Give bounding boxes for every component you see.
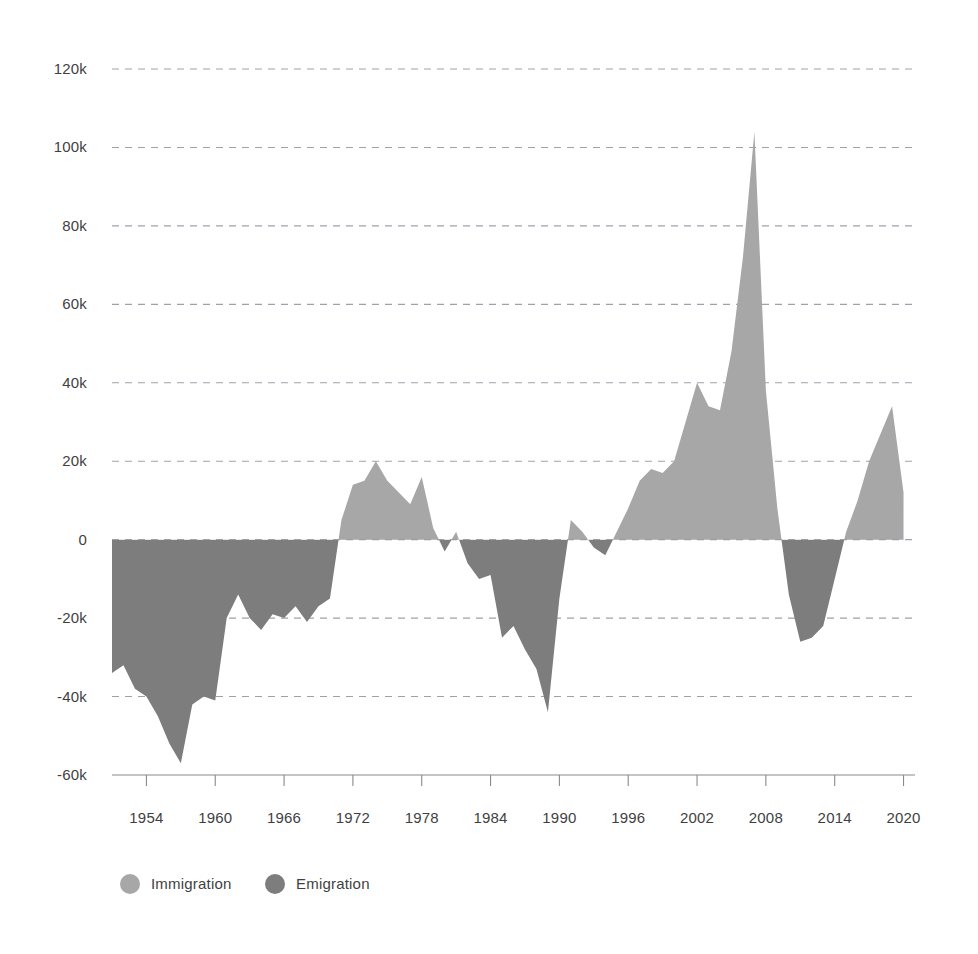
y-tick-label: 0 [78,531,87,548]
x-tick-label: 1954 [129,809,163,826]
y-tick-label: 100k [54,138,88,155]
legend-item-label: Immigration [151,875,232,892]
y-tick-label: -20k [57,609,87,626]
x-tick-label: 1972 [336,809,370,826]
x-tick-label: 1966 [267,809,301,826]
legend-item-emigration[interactable]: Emigration [265,874,370,894]
immigration-area [112,132,904,763]
plot-area-group [112,132,904,763]
legend-swatch-icon [265,874,285,894]
y-tick-label: -40k [57,688,87,705]
x-tick-label: 2008 [749,809,783,826]
x-axis-group [112,775,915,786]
x-tick-label: 1990 [542,809,576,826]
x-tick-label: 2014 [818,809,852,826]
net-migration-area-chart: 120k100k80k60k40k20k0-20k-40k-60k 195419… [0,0,978,954]
y-axis-labels-group: 120k100k80k60k40k20k0-20k-40k-60k [54,60,88,783]
y-tick-label: 40k [62,374,87,391]
legend-item-label: Emigration [296,875,370,892]
x-tick-label: 1984 [473,809,507,826]
emigration-area [112,132,904,763]
y-tick-label: 20k [62,452,87,469]
x-tick-label: 1978 [405,809,439,826]
x-axis-labels-group: 1954196019661972197819841990199620022008… [129,809,920,826]
y-tick-label: 80k [62,217,87,234]
y-tick-label: 60k [62,295,87,312]
chart-canvas: 120k100k80k60k40k20k0-20k-40k-60k 195419… [0,0,978,954]
x-tick-label: 2002 [680,809,714,826]
y-tick-label: -60k [57,766,87,783]
legend-group[interactable]: ImmigrationEmigration [120,874,370,894]
x-tick-label: 1960 [198,809,232,826]
x-tick-label: 2020 [886,809,920,826]
y-tick-label: 120k [54,60,88,77]
x-tick-label: 1996 [611,809,645,826]
legend-swatch-icon [120,874,140,894]
legend-item-immigration[interactable]: Immigration [120,874,232,894]
